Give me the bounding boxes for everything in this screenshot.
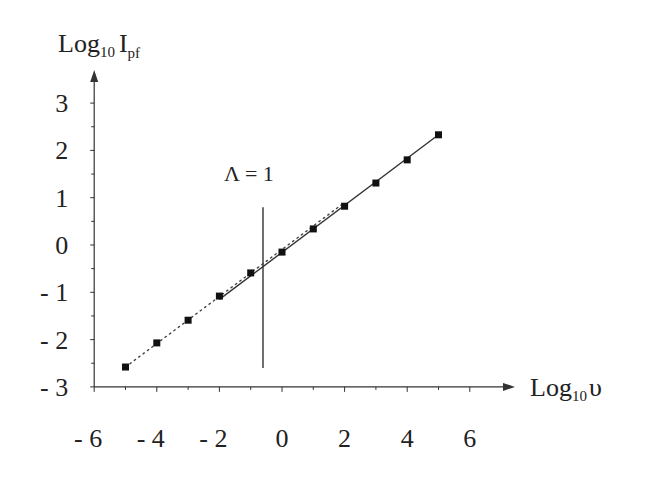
x-tick-label: - 4 xyxy=(137,424,165,453)
data-point-marker xyxy=(404,156,411,163)
data-point-marker xyxy=(247,269,254,276)
x-tick-label: 0 xyxy=(276,424,289,453)
y-tick-label: 3 xyxy=(55,89,68,118)
data-point-marker xyxy=(185,317,192,324)
data-point-marker xyxy=(341,203,348,210)
x-axis-label: Log10υ xyxy=(530,373,602,404)
axis-labels: 3210- 1- 2- 3- 6- 4- 20246Λ = 1Log10IpfL… xyxy=(40,29,602,453)
ticks xyxy=(90,103,470,392)
data-point-marker xyxy=(122,364,129,371)
data-point-marker xyxy=(310,225,317,232)
y-tick-label: - 2 xyxy=(40,326,68,355)
y-tick-label: - 1 xyxy=(40,278,68,307)
x-axis-arrow-icon xyxy=(503,383,515,391)
chart-root: 3210- 1- 2- 3- 6- 4- 20246Λ = 1Log10IpfL… xyxy=(0,0,646,479)
y-axis-label: Log10Ipf xyxy=(58,29,140,61)
y-tick-label: 2 xyxy=(55,136,68,165)
data-point-marker xyxy=(435,131,442,138)
x-tick-label: - 6 xyxy=(74,424,102,453)
data-point-marker xyxy=(372,180,379,187)
x-tick-label: - 2 xyxy=(199,424,227,453)
lambda-annotation: Λ = 1 xyxy=(224,161,274,186)
x-tick-label: 2 xyxy=(338,424,351,453)
data-point-marker xyxy=(216,293,223,300)
y-tick-label: 1 xyxy=(55,184,68,213)
x-tick-label: 6 xyxy=(463,424,476,453)
y-tick-label: 0 xyxy=(55,231,68,260)
data-point-marker xyxy=(279,249,286,256)
y-axis-arrow-icon xyxy=(90,70,98,82)
x-tick-label: 4 xyxy=(401,424,414,453)
series xyxy=(122,131,442,370)
y-tick-label: - 3 xyxy=(40,373,68,402)
data-point-marker xyxy=(153,339,160,346)
log-log-chart: 3210- 1- 2- 3- 6- 4- 20246Λ = 1Log10IpfL… xyxy=(0,0,646,479)
